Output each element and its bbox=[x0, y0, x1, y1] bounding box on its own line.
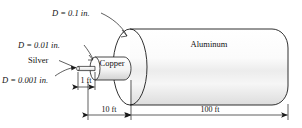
dim-label-aluminum-length: 100 ft bbox=[201, 105, 221, 114]
silver-label: Silver bbox=[28, 55, 48, 65]
silver-diameter-label: D = 0.001 in. bbox=[1, 75, 48, 85]
aluminum-cylinder: Aluminum bbox=[113, 29, 288, 105]
dim-label-silver-length: 1 ft bbox=[81, 76, 93, 85]
leader-silver-label bbox=[59, 61, 73, 67]
aluminum-label: Aluminum bbox=[191, 39, 228, 49]
leader-copper-diameter bbox=[84, 45, 93, 59]
copper-label: Copper bbox=[99, 58, 124, 68]
silver-left-cap-ellipse bbox=[77, 66, 80, 70]
silver-wire bbox=[77, 66, 96, 70]
diagram-canvas: Aluminum Copper 1 ft bbox=[0, 0, 302, 128]
copper-cylinder: Copper bbox=[90, 57, 131, 80]
copper-diameter-label: D = 0.01 in. bbox=[17, 40, 60, 50]
aluminum-diameter-label: D = 0.1 in. bbox=[51, 8, 90, 18]
dim-label-copper-length: 10 ft bbox=[102, 105, 118, 114]
leader-silver-arrowhead bbox=[71, 66, 76, 70]
engineering-diagram: Aluminum Copper 1 ft bbox=[0, 0, 302, 128]
silver-wire-body bbox=[78, 66, 95, 70]
